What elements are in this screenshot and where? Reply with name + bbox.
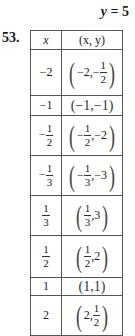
equation: y = 5 — [101, 4, 129, 20]
table-row: 12 (12,2) — [31, 236, 123, 278]
problem-number: 53. — [2, 30, 20, 46]
x-cell: 12 — [31, 236, 62, 278]
equation-lhs: y — [101, 4, 107, 19]
x-cell: 2 — [31, 296, 62, 336]
table-row: 1 (1,1) — [31, 278, 123, 296]
pair-cell: (1,1) — [62, 278, 123, 296]
header-x: x — [31, 31, 62, 50]
pair-cell: (−13,−3) — [62, 156, 123, 196]
x-cell: 1 — [31, 278, 62, 296]
pair-cell: (2,12) — [62, 296, 123, 336]
x-cell: −12 — [31, 116, 62, 156]
pair-cell: (−12,−2) — [62, 116, 123, 156]
table-row: 13 (13,3) — [31, 196, 123, 236]
equation-rhs: = 5 — [111, 4, 129, 19]
table-row: −13 (−13,−3) — [31, 156, 123, 196]
x-cell: −13 — [31, 156, 62, 196]
pair-cell: (13,3) — [62, 196, 123, 236]
pair-cell: (−2,−12) — [62, 50, 123, 96]
pair-cell: (12,2) — [62, 236, 123, 278]
header-xy: (x, y) — [62, 31, 123, 50]
table-row: −1 (−1,−1) — [31, 96, 123, 116]
x-cell: −1 — [31, 96, 62, 116]
pair-cell: (−1,−1) — [62, 96, 123, 116]
x-cell: 13 — [31, 196, 62, 236]
x-cell: −2 — [31, 50, 62, 96]
table-row: 2 (2,12) — [31, 296, 123, 336]
table-row: −12 (−12,−2) — [31, 116, 123, 156]
table-row: −2 (−2,−12) — [31, 50, 123, 96]
xy-table: x (x, y) −2 (−2,−12) −1 (−1,−1) −12 (−12… — [30, 30, 123, 336]
table-header-row: x (x, y) — [31, 31, 123, 50]
